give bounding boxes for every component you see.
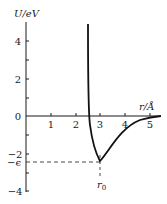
y-tick-0: 0 [15, 111, 21, 122]
potential-energy-chart: 4 2 0 −2 −4 1 2 3 4 5 U/eV r/Å −ϵ r0 [0, 0, 167, 204]
x-tick-2: 2 [73, 119, 79, 130]
x-tick-3: 3 [97, 119, 103, 130]
x-axis-title: r/Å [139, 101, 154, 112]
epsilon-label: −ϵ [7, 157, 21, 168]
r0-label: r0 [97, 179, 106, 192]
x-tick-1: 1 [48, 119, 54, 130]
y-axis-title: U/eV [14, 8, 41, 19]
y-tick-minus-4: −4 [8, 186, 23, 197]
y-tick-2: 2 [15, 74, 21, 85]
potential-curve [88, 24, 161, 161]
x-tick-5: 5 [147, 119, 153, 130]
y-tick-4: 4 [15, 36, 21, 47]
